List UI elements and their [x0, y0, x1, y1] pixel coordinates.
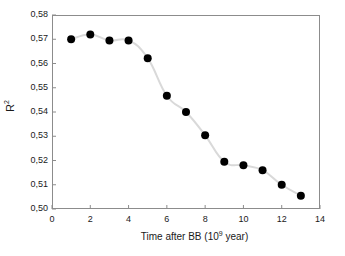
data-point-marker — [239, 161, 247, 169]
x-tick-label: 14 — [308, 215, 332, 224]
y-tick-marks — [52, 15, 56, 209]
x-tick-label: 4 — [117, 215, 141, 224]
y-tick-label: 0,50 — [4, 204, 48, 213]
y-axis-title-exponent: 2 — [3, 100, 10, 104]
x-axis-title-base: Time after BB (10 — [141, 231, 219, 242]
x-tick-marks — [52, 205, 320, 209]
data-point-marker — [67, 35, 75, 43]
x-axis-tick-labels: 02468101214 — [0, 215, 345, 229]
chart-figure: 0,500,510,520,530,540,550,560,570,58 024… — [0, 0, 345, 256]
data-point-marker — [278, 181, 286, 189]
x-tick-label: 2 — [78, 215, 102, 224]
x-tick-label: 10 — [231, 215, 255, 224]
y-tick-label: 0,51 — [4, 180, 48, 189]
y-tick-label: 0,58 — [4, 10, 48, 19]
x-axis-title-tail: year) — [223, 231, 249, 242]
data-point-marker — [125, 36, 133, 44]
x-tick-label: 8 — [193, 215, 217, 224]
data-point-marker — [259, 166, 267, 174]
x-tick-label: 0 — [40, 215, 64, 224]
data-point-marker — [182, 108, 190, 116]
data-point-marker — [144, 54, 152, 62]
data-point-marker — [201, 131, 209, 139]
y-axis-title: R2 — [4, 78, 16, 134]
data-point-marker — [163, 92, 171, 100]
x-tick-label: 6 — [155, 215, 179, 224]
x-tick-label: 12 — [270, 215, 294, 224]
y-tick-label: 0,57 — [4, 34, 48, 43]
y-tick-label: 0,56 — [4, 59, 48, 68]
data-point-marker — [297, 192, 305, 200]
y-axis-title-base: R — [4, 104, 16, 112]
x-axis-title: Time after BB (109 year) — [0, 231, 345, 243]
data-point-marker — [220, 158, 228, 166]
data-point-marker — [86, 30, 94, 38]
y-tick-label: 0,52 — [4, 156, 48, 165]
data-point-marker — [105, 36, 113, 44]
